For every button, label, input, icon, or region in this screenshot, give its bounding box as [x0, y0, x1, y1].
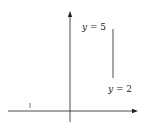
- x-axis-arrow-icon: [132, 109, 138, 113]
- y-axis-arrow-icon: [68, 11, 72, 17]
- graph-canvas: y = 5 y = 2: [0, 0, 142, 127]
- curve-label-5x: y = 5: [81, 22, 106, 32]
- curve-label-2x: y = 2: [107, 84, 132, 94]
